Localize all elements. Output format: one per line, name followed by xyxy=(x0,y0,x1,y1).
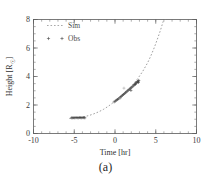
figure-caption: (a) xyxy=(0,160,211,175)
y-axis-title: Height [R☉] xyxy=(5,56,16,96)
y-tick-label: 6 xyxy=(26,44,30,53)
y-tick-label: 4 xyxy=(26,72,30,81)
x-tick-label: 5 xyxy=(154,136,158,145)
x-tick-label: 0 xyxy=(113,136,117,145)
y-tick-label: 0 xyxy=(26,129,30,138)
plot-frame xyxy=(34,20,197,134)
x-tick-label: -5 xyxy=(71,136,78,145)
sim-curve xyxy=(69,20,165,119)
y-tick-label: 8 xyxy=(26,15,30,24)
legend-sim-label: Sim xyxy=(68,21,80,30)
legend-obs-label: Obs xyxy=(68,34,80,43)
figure-panel: -10-5051002468Time [hr]Height [R☉]SimObs… xyxy=(0,0,211,194)
y-tick-label: 2 xyxy=(26,101,30,110)
x-axis-title: Time [hr] xyxy=(100,148,131,157)
x-tick-label: 10 xyxy=(193,136,201,145)
